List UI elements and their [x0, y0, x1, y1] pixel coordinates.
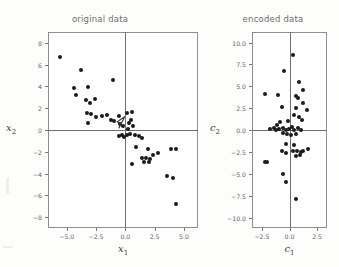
data-point [174, 202, 178, 206]
y-tick [45, 130, 48, 131]
data-point [301, 101, 305, 105]
y-tick-label: 2 [38, 105, 42, 112]
y-tick [249, 152, 252, 153]
x-tick [262, 228, 263, 231]
y-axis-label-sub: 2 [12, 128, 16, 136]
data-point [169, 147, 173, 151]
y-axis-label: x2 [6, 122, 16, 136]
data-point [156, 151, 160, 155]
y-tick [45, 174, 48, 175]
data-point [134, 145, 138, 149]
data-point [296, 96, 300, 100]
data-point [300, 118, 304, 122]
panel-title-original-data: original data [10, 14, 190, 24]
data-point [284, 151, 288, 155]
data-point [111, 78, 115, 82]
data-point [86, 85, 90, 89]
data-point [93, 97, 97, 101]
data-point [268, 127, 272, 131]
x-tick-label: −2.5 [254, 233, 269, 240]
y-tick-label: −2 [33, 148, 42, 155]
y-tick [45, 65, 48, 66]
y-tick [249, 218, 252, 219]
x-axis-label: x1 [118, 243, 128, 257]
data-point [105, 113, 109, 117]
y-tick [45, 43, 48, 44]
data-point [130, 110, 134, 114]
data-point [263, 92, 267, 96]
data-point [291, 53, 295, 57]
y-tick-label: 6 [38, 61, 42, 68]
y-tick [45, 86, 48, 87]
x-tick-label: 2.5 [150, 233, 160, 240]
y-tick-label: −6 [33, 192, 42, 199]
data-point [58, 55, 62, 59]
x-tick-label: 5.0 [179, 233, 189, 240]
data-point [142, 160, 146, 164]
x-tick-label: −5.0 [59, 233, 74, 240]
data-point [276, 93, 280, 97]
data-point [88, 101, 92, 105]
y-tick-label: −8 [33, 214, 42, 221]
data-point [79, 68, 83, 72]
data-point [128, 132, 132, 136]
y-tick [45, 152, 48, 153]
x-axis-label-sub: 1 [290, 249, 294, 257]
x-tick-label: 2.5 [312, 233, 322, 240]
data-point [165, 174, 169, 178]
data-point [299, 128, 303, 132]
y-tick-label: −10.0 [227, 214, 246, 221]
data-point [294, 132, 298, 136]
data-point [171, 176, 175, 180]
data-point [298, 153, 302, 157]
data-point [147, 160, 151, 164]
data-point [282, 69, 286, 73]
scan-artifact-left [6, 178, 9, 194]
y-tick [249, 130, 252, 131]
y-tick-label: 7.5 [236, 61, 246, 68]
data-point [297, 80, 301, 84]
y-tick-label: 0 [38, 127, 42, 134]
data-point [72, 86, 76, 90]
data-point [280, 105, 284, 109]
y-tick [249, 43, 252, 44]
data-point [294, 106, 298, 110]
data-point [89, 112, 93, 116]
panel-encoded-data: encoded data 10.07.55.02.50.0−2.5−5.0−7.… [205, 14, 339, 264]
data-point [140, 136, 144, 140]
y-axis-label-sub: 2 [216, 128, 220, 136]
data-point [289, 133, 293, 137]
x-axis-label: c1 [285, 243, 295, 257]
data-point [94, 115, 98, 119]
data-point [174, 147, 178, 151]
x-tick [290, 228, 291, 231]
y-tick [45, 195, 48, 196]
data-point [292, 143, 296, 147]
x-tick [96, 228, 97, 231]
data-point [86, 121, 90, 125]
y-tick [249, 196, 252, 197]
data-point [306, 147, 310, 151]
scatter-figure: original data 86420−2−4−6−8−5.0−2.50.02.… [0, 0, 339, 267]
y-tick [249, 108, 252, 109]
data-point [74, 93, 78, 97]
data-point [146, 147, 150, 151]
x-tick [125, 228, 126, 231]
y-tick-label: 5.0 [236, 83, 246, 90]
data-point [131, 124, 135, 128]
x-tick [317, 228, 318, 231]
data-point [301, 88, 305, 92]
x-tick [67, 228, 68, 231]
y-axis-label: c2 [210, 122, 220, 136]
data-point [284, 142, 288, 146]
y-tick-label: −7.5 [231, 192, 246, 199]
x-tick-label: 0.0 [285, 233, 295, 240]
y-tick-label: 0.0 [236, 127, 246, 134]
data-point [100, 114, 104, 118]
y-tick-label: 4 [38, 83, 42, 90]
y-tick-label: 2.5 [236, 105, 246, 112]
y-tick [45, 217, 48, 218]
y-tick [45, 108, 48, 109]
data-point [284, 180, 288, 184]
cursor-arrow-icon [116, 115, 128, 134]
